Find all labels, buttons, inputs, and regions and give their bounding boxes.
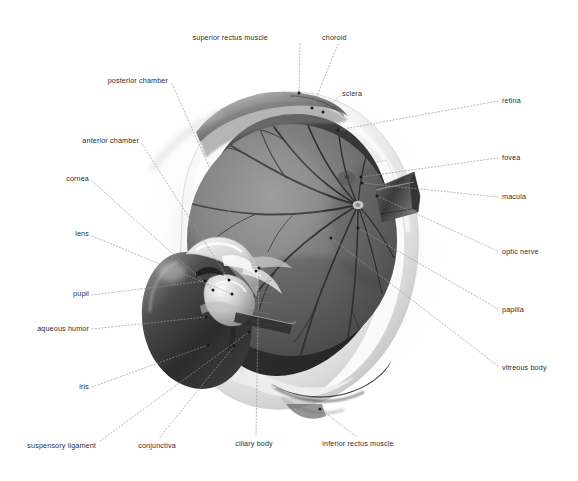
dot-cornea — [212, 289, 215, 292]
dot-anterior-chamber — [228, 279, 231, 282]
dot-pupil — [204, 280, 207, 283]
label-optic-nerve: optic nerve — [502, 247, 539, 256]
label-lens: lens — [75, 229, 89, 238]
fovea-point — [345, 175, 350, 179]
label-cornea: cornea — [66, 174, 89, 183]
label-conjunctiva: conjunctiva — [138, 441, 176, 450]
label-aqueous-humor: aqueous humor — [37, 324, 89, 333]
label-vitreous-body: vitreous body — [502, 363, 547, 372]
dot-conjunctiva — [233, 345, 236, 348]
eye-anatomy-diagram: superior rectus muscle choroid sclera po… — [0, 0, 578, 481]
label-superior-rectus-muscle: superior rectus muscle — [193, 33, 268, 42]
dot-macula — [361, 182, 364, 185]
label-ciliary-body: ciliary body — [235, 439, 273, 448]
label-suspensory-ligament: suspensory ligament — [27, 441, 96, 450]
label-pupil: pupil — [73, 289, 89, 298]
label-iris: iris — [79, 382, 89, 391]
label-macula: macula — [502, 192, 526, 201]
dot-ciliary-body — [258, 267, 261, 270]
label-papilla: papilla — [502, 305, 524, 314]
dot-inferior-rectus-muscle — [319, 408, 322, 411]
label-anterior-chamber: anterior chamber — [82, 136, 139, 145]
dot-iris — [207, 344, 210, 347]
dot-vitreous-body — [330, 237, 333, 240]
dot-aqueous-humor — [205, 316, 208, 319]
label-choroid: choroid — [322, 33, 347, 42]
label-sclera: sclera — [342, 89, 362, 98]
dot-superior-rectus-muscle — [298, 92, 301, 95]
dot-fovea — [360, 176, 363, 179]
dot-choroid — [311, 107, 314, 110]
dot-sclera — [322, 111, 325, 114]
label-inferior-rectus-muscle: inferior rectus muscle — [322, 439, 393, 448]
label-fovea: fovea — [502, 153, 520, 162]
dot-suspensory-ligament — [248, 331, 251, 334]
label-posterior-chamber: posterior chamber — [108, 76, 168, 85]
dot-optic-nerve — [376, 195, 379, 198]
dot-papilla — [357, 227, 360, 230]
label-retina: retina — [502, 96, 521, 105]
dot-retina — [337, 129, 340, 132]
dot-lens — [231, 293, 234, 296]
dot-posterior-chamber — [255, 270, 258, 273]
eye-illustration — [0, 0, 578, 481]
